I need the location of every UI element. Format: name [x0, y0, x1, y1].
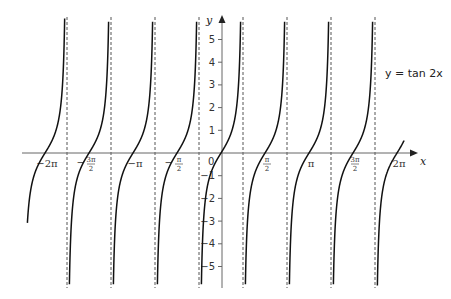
svg-text:2: 2 — [89, 165, 93, 173]
y-tick-label: 1 — [209, 125, 215, 136]
y-tick-label: 4 — [209, 57, 215, 68]
svg-text:2: 2 — [265, 165, 269, 173]
svg-text:2: 2 — [177, 165, 181, 173]
svg-text:π: π — [265, 156, 270, 164]
y-tick-label: 3 — [209, 79, 215, 90]
svg-text:π: π — [308, 158, 315, 169]
x-tick-label: π — [308, 158, 315, 169]
x-tick-label: 2π — [393, 158, 406, 169]
y-tick-label: 2 — [209, 102, 215, 113]
x-axis-arrow-icon — [410, 150, 418, 157]
x-tick-label: 3π2 — [350, 156, 359, 173]
origin-label: 0 — [208, 156, 214, 167]
tan-curve-branch — [27, 18, 64, 222]
svg-text:π: π — [177, 156, 182, 164]
equation-label: y = tan 2x — [385, 67, 443, 80]
svg-text:2: 2 — [353, 165, 357, 173]
y-tick-label: −3 — [200, 216, 215, 227]
y-tick-label: −2 — [200, 193, 215, 204]
x-axis-label: x — [420, 155, 427, 168]
y-tick-label: −1 — [200, 170, 215, 181]
y-axis-arrow-icon — [219, 15, 226, 23]
svg-text:3π: 3π — [86, 156, 95, 164]
tan-2x-curves — [27, 18, 404, 285]
axes — [22, 15, 418, 288]
y-tick-label: 5 — [209, 34, 215, 45]
svg-text:3π: 3π — [350, 156, 359, 164]
y-axis-label: y — [205, 14, 213, 27]
tan-2x-graph: 54321−1−2−3−4−5 −2π−3π2−π−π2π2π3π22π x y… — [0, 0, 451, 299]
x-tick-label: π2 — [263, 156, 271, 173]
svg-text:2π: 2π — [393, 158, 406, 169]
